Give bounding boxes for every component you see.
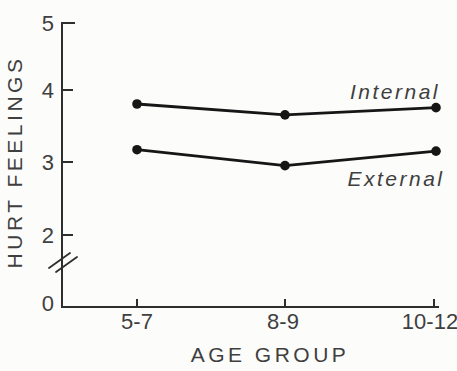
data-point-internal-8-9 <box>280 110 290 120</box>
series-label-internal: Internal <box>350 80 440 103</box>
series-label-external: External <box>347 167 444 190</box>
data-point-external-10-12 <box>431 146 441 156</box>
y-tick-label-4: 4 <box>42 78 54 103</box>
y-tick-label-3: 3 <box>42 150 54 175</box>
data-point-internal-10-12 <box>431 103 441 113</box>
y-axis-title: HURT FEELINGS <box>3 56 26 269</box>
y-tick-label-5: 5 <box>42 11 54 36</box>
x-tick-label-8-9: 8-9 <box>267 309 299 334</box>
series-layer <box>132 99 441 170</box>
data-point-external-8-9 <box>280 161 290 171</box>
data-point-internal-5-7 <box>132 99 142 109</box>
hurt-feelings-chart: 5 4 3 2 0 5-7 8-9 10-12 AGE GROUP HURT F… <box>0 0 457 371</box>
x-axis <box>62 300 438 307</box>
y-tick-label-2: 2 <box>42 223 54 248</box>
axis-break-slash-1 <box>49 253 70 268</box>
x-tick-label-10-12: 10-12 <box>402 309 457 334</box>
data-point-external-5-7 <box>132 145 142 155</box>
x-tick-label-5-7: 5-7 <box>121 309 153 334</box>
y-tick-label-0: 0 <box>42 291 54 316</box>
x-tick-labels: 5-7 8-9 10-12 <box>121 309 457 334</box>
x-axis-title: AGE GROUP <box>191 343 350 366</box>
line-chart-figure: 5 4 3 2 0 5-7 8-9 10-12 AGE GROUP HURT F… <box>0 0 457 371</box>
axis-break-slash-2 <box>56 257 77 272</box>
y-tick-labels: 5 4 3 2 0 <box>42 11 54 316</box>
